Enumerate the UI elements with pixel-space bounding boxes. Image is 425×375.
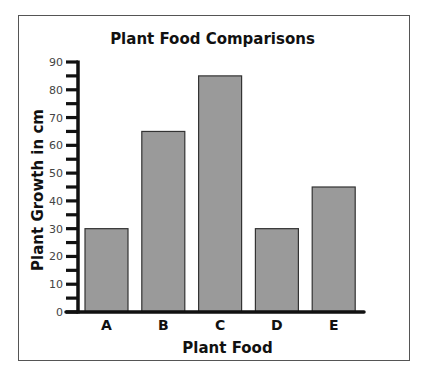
y-tick-label: 20 — [49, 250, 63, 263]
y-tick-label: 80 — [49, 84, 63, 97]
x-tick-label: A — [101, 317, 112, 333]
x-tick-label: D — [271, 317, 283, 333]
bar-d — [255, 229, 298, 312]
x-tick-label: C — [215, 317, 225, 333]
plot-area: ABCDE0102030405060708090 — [0, 0, 425, 375]
y-tick-label: 40 — [49, 195, 63, 208]
y-tick-label: 30 — [49, 223, 63, 236]
y-tick-label: 70 — [49, 112, 63, 125]
bar-a — [85, 229, 128, 312]
x-tick-label: E — [329, 317, 339, 333]
y-tick-label: 90 — [49, 56, 63, 69]
bar-c — [199, 76, 242, 312]
bar-b — [142, 131, 185, 312]
y-tick-label: 60 — [49, 139, 63, 152]
y-tick-label: 0 — [56, 306, 63, 319]
x-tick-label: B — [158, 317, 169, 333]
y-tick-label: 10 — [49, 278, 63, 291]
bar-e — [312, 187, 355, 312]
y-tick-label: 50 — [49, 167, 63, 180]
